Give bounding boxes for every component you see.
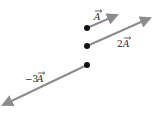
- label-a: A: [93, 10, 102, 23]
- origin-dot-a: [84, 25, 90, 31]
- svg-text:A: A: [93, 12, 101, 22]
- vector-neg3a: [3, 62, 90, 105]
- svg-text:2: 2: [117, 39, 123, 49]
- origin-dot-neg3a: [84, 62, 90, 68]
- vector-diagram-svg: A 2 A −3 A: [0, 0, 154, 120]
- svg-text:A: A: [122, 39, 130, 49]
- vector-a: [84, 15, 117, 31]
- origin-dot-2a: [84, 43, 90, 49]
- svg-text:A: A: [36, 74, 44, 84]
- vector-diagram: A 2 A −3 A: [0, 0, 154, 120]
- label-neg3a: −3 A: [25, 72, 45, 85]
- label-2a: 2 A: [117, 37, 131, 50]
